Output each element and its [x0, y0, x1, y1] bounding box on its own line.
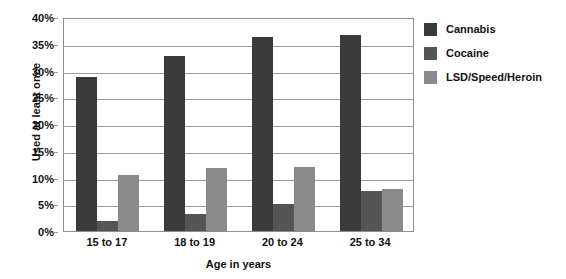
legend-item: LSD/Speed/Heroin — [424, 65, 564, 89]
legend-item: Cannabis — [424, 17, 564, 41]
legend-label: LSD/Speed/Heroin — [446, 71, 542, 83]
bar — [76, 77, 97, 231]
y-axis-tick-label: 5% — [38, 199, 54, 211]
bar — [361, 191, 382, 231]
y-axis-tick-mark — [54, 18, 58, 19]
legend-item: Cocaine — [424, 41, 564, 65]
x-axis-tick-label: 18 to 19 — [174, 236, 215, 248]
x-axis-title: Age in years — [63, 258, 414, 270]
y-axis-tick-label: 30% — [32, 66, 54, 78]
bar — [294, 167, 315, 231]
y-axis-tick-mark — [54, 125, 58, 126]
y-axis-tick-mark — [54, 205, 58, 206]
bar-chart: Used at least once 0%5%10%15%20%25%30%35… — [0, 0, 566, 279]
y-axis-tick-label: 0% — [38, 226, 54, 238]
bar — [97, 221, 118, 231]
x-axis-tick-labels: 15 to 1718 to 1920 to 2425 to 34 — [63, 236, 414, 254]
y-axis-tick-mark — [54, 72, 58, 73]
y-axis-tick-label: 15% — [32, 146, 54, 158]
bar — [206, 168, 227, 231]
y-axis-tick-mark — [54, 179, 58, 180]
legend-swatch — [424, 47, 437, 60]
bar — [252, 37, 273, 231]
legend-swatch — [424, 71, 437, 84]
y-axis-tick-mark — [54, 45, 58, 46]
bar — [382, 189, 403, 231]
y-axis-tick-label: 20% — [32, 119, 54, 131]
bars-layer — [64, 19, 413, 231]
legend: CannabisCocaineLSD/Speed/Heroin — [424, 17, 564, 89]
bar — [164, 56, 185, 231]
y-axis-tick-mark — [54, 98, 58, 99]
y-axis-tick-label: 35% — [32, 39, 54, 51]
plot-area — [63, 18, 414, 232]
x-axis-tick-label: 15 to 17 — [86, 236, 127, 248]
bar — [185, 214, 206, 231]
y-axis-tick-mark — [54, 152, 58, 153]
legend-label: Cocaine — [446, 47, 489, 59]
bar — [118, 175, 139, 231]
y-axis-tick-label: 40% — [32, 12, 54, 24]
x-axis-tick-label: 20 to 24 — [262, 236, 303, 248]
y-axis-tick-labels: 0%5%10%15%20%25%30%35%40% — [12, 18, 58, 232]
bar — [273, 204, 294, 231]
legend-label: Cannabis — [446, 23, 496, 35]
y-axis-tick-label: 25% — [32, 92, 54, 104]
y-axis-tick-label: 10% — [32, 173, 54, 185]
legend-swatch — [424, 23, 437, 36]
x-axis-tick-label: 25 to 34 — [350, 236, 391, 248]
bar — [340, 35, 361, 231]
y-axis-tick-mark — [54, 232, 58, 233]
